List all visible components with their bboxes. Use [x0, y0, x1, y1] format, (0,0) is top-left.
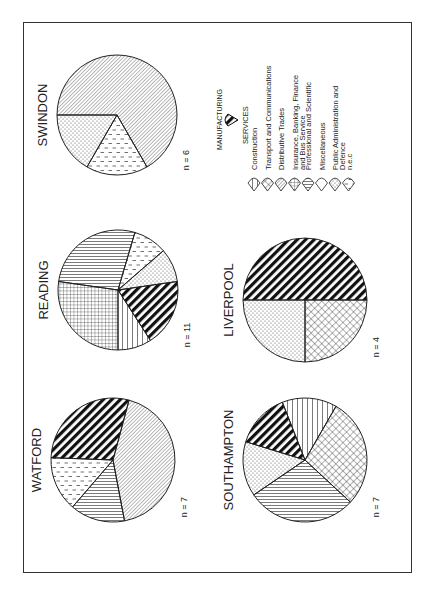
pie-n-count: n = 6 [181, 150, 191, 170]
pie-n-count: n = 4 [371, 337, 381, 357]
pie-swindon: SWINDONn = 6 [35, 55, 191, 175]
legend-label-transport: Transport and Communications [264, 65, 273, 170]
pie-reading: READINGn = 11 [36, 230, 192, 350]
pie-watford: WATFORDn = 7 [29, 398, 189, 522]
pie-n-count: n = 7 [179, 497, 189, 517]
legend-label-professional: Professional and Scientific [304, 82, 313, 170]
slice-manufacturing [243, 238, 367, 300]
legend-label-misc: Miscellaneous [318, 122, 327, 170]
legend-symbol-public-icon [329, 178, 341, 191]
legend-symbol-distributive-icon [275, 178, 287, 191]
manufacturing-symbol-icon [225, 114, 238, 126]
legend-manufacturing-label: MANUFACTURING [216, 89, 223, 150]
pie-title: WATFORD [29, 428, 44, 492]
legend-symbol-nec-icon [343, 178, 355, 191]
legend-services-label: SERVICES [241, 106, 250, 144]
pie-title: SWINDON [35, 84, 50, 147]
legend-label-distributive: Distributive Trades [277, 108, 286, 170]
legend-label-nec: n.e.c [345, 153, 354, 170]
pie-title: SOUTHAMPTON [221, 410, 236, 511]
legend-symbol-transport-icon [262, 178, 274, 191]
pie-n-count: n = 11 [182, 323, 192, 348]
pie-title: LIVERPOOL [221, 263, 236, 337]
legend-symbol-professional-icon [302, 178, 314, 191]
pie-n-count: n = 7 [371, 497, 381, 517]
legend-label-construction: Construction [250, 128, 259, 170]
pie-southampton: SOUTHAMPTONn = 7 [221, 398, 381, 522]
pie-chart-figure: SWINDONn = 6READINGn = 11WATFORDn = 7LIV… [0, 0, 431, 592]
legend: MANUFACTURINGSERVICESConstructionTranspo… [216, 65, 355, 191]
legend-symbol-insurance-icon [289, 178, 301, 191]
slice-public [243, 300, 305, 362]
slice-transport [305, 300, 367, 362]
legend-symbol-misc-icon [316, 178, 328, 191]
pie-title: READING [36, 260, 51, 319]
slice-insurance [58, 281, 118, 350]
legend-symbol-construction-icon [248, 178, 260, 191]
pie-liverpool: LIVERPOOLn = 4 [221, 238, 381, 362]
